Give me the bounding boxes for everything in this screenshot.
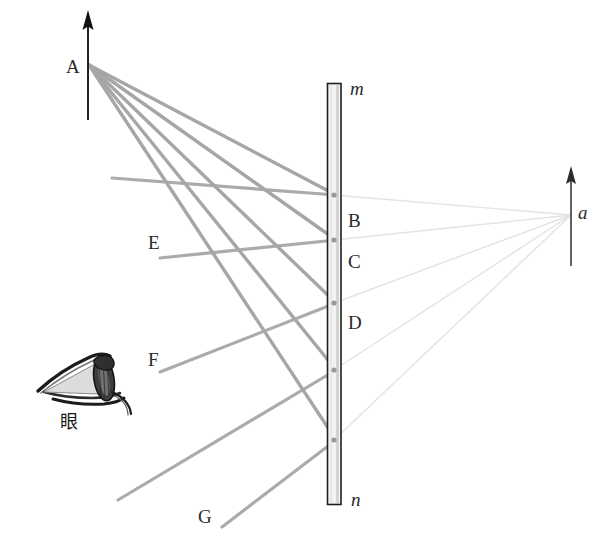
label-mirror-bottom-n: n [351, 490, 361, 509]
virtual-ray-group [334, 195, 571, 440]
incident-ray-3 [89, 65, 336, 303]
virtual-ray-4 [334, 215, 571, 370]
label-reflection-point-B: B [348, 211, 361, 230]
ray-diagram-figure: A m n a B C D E F G 眼 [0, 0, 593, 548]
label-mirror-top-m: m [350, 79, 364, 98]
incident-ray-5 [89, 65, 336, 440]
reflected-ray-E [160, 240, 336, 258]
label-ray-end-E: E [148, 233, 160, 252]
ray-diagram-canvas [0, 0, 593, 548]
eye-illustration [38, 354, 131, 415]
incident-ray-1 [89, 65, 336, 195]
label-eye: 眼 [60, 413, 78, 431]
label-reflection-point-C: C [348, 252, 361, 271]
label-ray-end-F: F [148, 350, 159, 369]
reflected-ray-top [112, 178, 336, 195]
reflection-point-C [331, 300, 336, 305]
label-image-point-a: a [578, 203, 588, 222]
reflection-point-2 [331, 237, 336, 242]
incident-ray-2 [89, 65, 336, 240]
label-object-point-A: A [66, 57, 80, 76]
label-reflection-point-D: D [348, 313, 362, 332]
label-ray-end-G: G [198, 507, 212, 526]
reflected-ray-G [222, 440, 336, 527]
reflection-point-B [331, 192, 336, 197]
reflection-point-5 [331, 437, 336, 442]
reflection-point-D [331, 367, 336, 372]
incident-ray-4 [89, 65, 336, 370]
virtual-ray-1 [334, 195, 571, 215]
virtual-ray-5 [334, 215, 571, 440]
incident-ray-group [89, 65, 336, 440]
